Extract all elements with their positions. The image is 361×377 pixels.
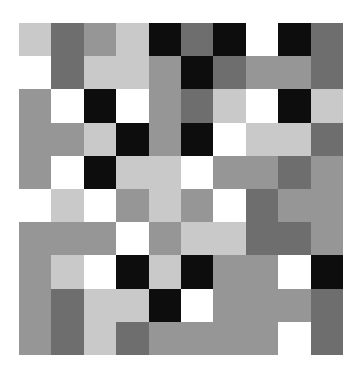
grid-cell [149,222,181,255]
grid-cell [213,322,245,355]
grid-cell [311,189,343,222]
grid-cell [19,289,51,322]
grid-cell [149,89,181,122]
grid-cell [213,89,245,122]
grid-cell [149,156,181,189]
grid-cell [181,322,213,355]
grid-cell [149,322,181,355]
grid-cell [181,23,213,56]
grid-cell [149,123,181,156]
grid-cell [278,156,310,189]
grid-cell [278,23,310,56]
grid-cell [84,89,116,122]
grid-cell [19,123,51,156]
grid-cell [181,289,213,322]
grid-cell [246,56,278,89]
grid-cell [181,255,213,288]
grid-cell [19,222,51,255]
grid-cell [213,123,245,156]
grid-cell [311,255,343,288]
grid-cell [311,123,343,156]
grid-cell [181,222,213,255]
grid-cell [149,255,181,288]
grid-cell [311,89,343,122]
grid-cell [19,56,51,89]
grid-cell [116,289,148,322]
grid-cell [278,89,310,122]
grid-cell [246,255,278,288]
grid-cell [246,322,278,355]
grid-cell [213,189,245,222]
grid-cell [51,89,83,122]
grid-cell [51,189,83,222]
grid-cell [84,56,116,89]
grid-cell [84,255,116,288]
grid-cell [278,222,310,255]
mosaic-figure [0,0,361,377]
grid-cell [311,23,343,56]
grid-cell [84,222,116,255]
grid-cell [246,23,278,56]
grid-cell [311,322,343,355]
grid-cell [51,222,83,255]
grid-cell [84,23,116,56]
grid-cell [311,222,343,255]
grid-cell [51,156,83,189]
grid-cell [278,255,310,288]
grid-cell [84,156,116,189]
grid-cell [181,56,213,89]
grid-cell [278,56,310,89]
grid-cell [149,56,181,89]
grid-cell [51,56,83,89]
heatmap-grid [19,23,343,355]
grid-cell [116,123,148,156]
grid-cell [116,156,148,189]
grid-cell [19,89,51,122]
grid-cell [246,89,278,122]
grid-cell [149,23,181,56]
grid-cell [278,123,310,156]
grid-cell [213,156,245,189]
grid-cell [116,189,148,222]
grid-cell [51,123,83,156]
grid-cell [213,56,245,89]
grid-cell [246,123,278,156]
grid-cell [181,123,213,156]
grid-cell [278,322,310,355]
grid-cell [19,322,51,355]
grid-cell [246,189,278,222]
grid-cell [19,23,51,56]
grid-cell [116,255,148,288]
grid-cell [116,222,148,255]
grid-cell [311,56,343,89]
grid-cell [116,23,148,56]
grid-cell [311,156,343,189]
grid-cell [311,289,343,322]
grid-cell [181,189,213,222]
grid-cell [116,56,148,89]
grid-cell [278,289,310,322]
grid-cell [84,322,116,355]
grid-cell [84,289,116,322]
grid-cell [246,289,278,322]
grid-cell [116,89,148,122]
grid-cell [213,222,245,255]
grid-cell [116,322,148,355]
grid-cell [213,289,245,322]
grid-cell [51,255,83,288]
grid-cell [246,156,278,189]
grid-cell [181,156,213,189]
grid-cell [149,189,181,222]
grid-cell [51,23,83,56]
grid-cell [84,189,116,222]
grid-cell [149,289,181,322]
grid-cell [246,222,278,255]
grid-cell [51,289,83,322]
grid-cell [51,322,83,355]
grid-cell [19,156,51,189]
grid-cell [84,123,116,156]
grid-cell [181,89,213,122]
grid-cell [19,255,51,288]
grid-cell [213,23,245,56]
grid-cell [19,189,51,222]
